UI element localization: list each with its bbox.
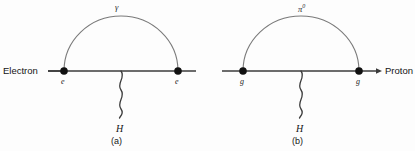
vertex-right-b	[355, 67, 363, 75]
electron-label: Electron	[3, 66, 38, 76]
panel-b-group	[222, 16, 382, 118]
higgs-wavy-line-b	[300, 71, 303, 118]
photon-loop-label: γ	[115, 3, 118, 12]
vertex-label-right-b: g	[356, 78, 360, 86]
photon-loop-arc	[64, 16, 178, 71]
vertex-label-left-a: e	[61, 78, 65, 86]
panel-a-group	[48, 16, 196, 118]
proton-label: Proton	[385, 66, 413, 76]
vertex-label-left-b: g	[240, 78, 244, 86]
vertex-label-right-a: e	[175, 78, 179, 86]
panel-caption-a: (a)	[111, 137, 122, 146]
pion-loop-charge: 0	[302, 3, 305, 9]
higgs-label-a: H	[116, 124, 123, 134]
higgs-label-b: H	[296, 124, 303, 134]
pion-loop-label: π0	[298, 3, 305, 13]
vertex-right-a	[174, 67, 182, 75]
cropped-footer-text: ....	[3, 146, 14, 151]
panel-caption-b: (b)	[292, 137, 303, 146]
vertex-left-a	[60, 67, 68, 75]
proton-arrowhead	[376, 68, 382, 73]
feynman-diagram-figure: Electron γ e e H (a) Proton π0 g g H (b)…	[0, 0, 415, 151]
pion-loop-arc	[243, 16, 359, 71]
vertex-left-b	[239, 67, 247, 75]
diagram-canvas	[0, 0, 415, 151]
higgs-wavy-line-a	[120, 71, 123, 118]
